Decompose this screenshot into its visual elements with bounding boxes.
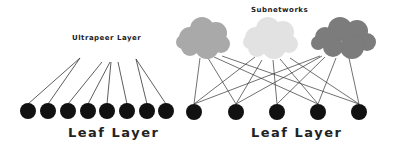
leaf-node xyxy=(269,104,285,120)
leaf-node xyxy=(351,104,367,120)
leaf-node xyxy=(158,103,174,119)
right-leaf-layer-label: Leaf Layer xyxy=(251,125,342,140)
left-leaf-layer-label: Leaf Layer xyxy=(68,125,159,140)
leaf-node xyxy=(80,103,96,119)
cloud-subnetwork-1 xyxy=(176,17,230,59)
leaf-node xyxy=(60,103,76,119)
leaf-node xyxy=(186,104,202,120)
leaf-node xyxy=(99,103,115,119)
cloud-subnetwork-2 xyxy=(243,17,298,59)
subnetwork-edges xyxy=(194,56,359,104)
leaf-node xyxy=(40,103,56,119)
leaf-node xyxy=(310,104,326,120)
subnetworks-label: Subnetworks xyxy=(251,6,308,14)
cloud-subnetwork-3 xyxy=(311,17,376,59)
leaf-node xyxy=(119,103,135,119)
ultrapeer-layer-label: Ultrapeer Layer xyxy=(72,34,141,42)
leaf-node xyxy=(20,103,36,119)
right-leaf-nodes xyxy=(186,104,367,120)
left-leaf-nodes xyxy=(20,103,174,119)
leaf-node xyxy=(228,104,244,120)
leaf-node xyxy=(139,103,155,119)
network-diagram: Ultrapeer Layer Leaf Layer Subnetworks L… xyxy=(0,0,393,154)
ultrapeer-edges xyxy=(28,58,166,104)
